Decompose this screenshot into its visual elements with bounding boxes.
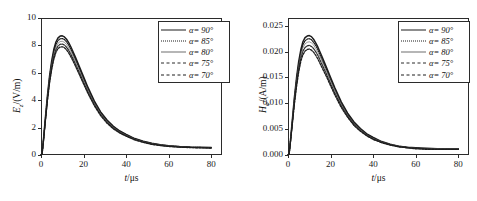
x-axis-tick-label: 40: [359, 160, 387, 169]
legend-line-sample-icon: [161, 60, 186, 66]
x-axis-tick-label: 80: [197, 160, 225, 169]
x-axis-tick-label: 20: [317, 160, 345, 169]
legend-line-sample-icon: [401, 27, 426, 33]
legend-item: α= 80°: [401, 47, 466, 58]
legend-item: α= 75°: [161, 58, 226, 69]
x-axis-tick: [211, 155, 212, 158]
legend-item-label: α= 80°: [429, 47, 453, 57]
y-axis-tick: [38, 18, 41, 19]
y-axis-tick-label: 0: [2, 150, 36, 159]
y-axis-tick: [285, 103, 288, 104]
legend-item-label: α= 80°: [189, 47, 213, 57]
legend-item-label: α= 70°: [429, 70, 453, 80]
y-axis-title-right: Hφ/(A/m): [258, 76, 271, 113]
x-axis-tick: [458, 155, 459, 158]
x-axis-tick: [373, 155, 374, 158]
x-axis-tick: [169, 155, 170, 158]
legend-line-sample-icon: [401, 60, 426, 66]
y-axis-tick: [38, 100, 41, 101]
legend-line-sample-icon: [161, 49, 186, 55]
y-axis-tick: [38, 73, 41, 74]
x-axis-tick: [126, 155, 127, 158]
legend-line-sample-icon: [161, 27, 186, 33]
x-axis-tick: [331, 155, 332, 158]
chart-panel-left: 0246810020406080 Ez/(V/m) t/μs α= 90° α=…: [0, 0, 238, 201]
x-axis-tick-label: 0: [27, 160, 55, 169]
x-axis-title-right: t/μs: [359, 173, 399, 183]
x-axis-tick-label: 60: [402, 160, 430, 169]
y-axis-tick-label: 6: [2, 68, 36, 77]
legend-item: α= 80°: [161, 47, 226, 58]
x-axis-tick-label: 80: [444, 160, 472, 169]
x-axis-tick: [84, 155, 85, 158]
legend-right: α= 90° α= 85° α= 80° α= 75° α= 70°: [398, 21, 470, 83]
legend-item: α= 70°: [401, 69, 466, 80]
x-axis-tick-label: 60: [155, 160, 183, 169]
legend-item-label: α= 75°: [429, 58, 453, 68]
x-axis-tick: [416, 155, 417, 158]
legend-item: α= 85°: [401, 35, 466, 46]
y-axis-tick: [285, 52, 288, 53]
x-axis-title-left: t/μs: [112, 173, 152, 183]
x-axis-tick-label: 20: [70, 160, 98, 169]
legend-line-sample-icon: [401, 38, 426, 44]
legend-line-sample-icon: [161, 72, 186, 78]
y-axis-tick: [285, 26, 288, 27]
legend-item: α= 90°: [401, 24, 466, 35]
y-axis-tick: [38, 128, 41, 129]
y-axis-tick-label: 0.000: [249, 150, 283, 159]
x-axis-tick-label: 40: [112, 160, 140, 169]
legend-item: α= 75°: [401, 58, 466, 69]
y-axis-tick-label: 0.005: [249, 124, 283, 133]
legend-item: α= 70°: [161, 69, 226, 80]
legend-line-sample-icon: [401, 72, 426, 78]
legend-item-label: α= 90°: [429, 25, 453, 35]
y-axis-tick-label: 0.025: [249, 21, 283, 30]
legend-item-label: α= 75°: [189, 58, 213, 68]
x-axis-tick: [41, 155, 42, 158]
y-axis-tick: [285, 77, 288, 78]
y-axis-tick-label: 8: [2, 40, 36, 49]
chart-panel-right: 0.0000.0050.0100.0150.0200.025020406080 …: [238, 0, 476, 201]
y-axis-tick-label: 10: [2, 13, 36, 22]
legend-item-label: α= 90°: [189, 25, 213, 35]
y-axis-tick-label: 0.020: [249, 47, 283, 56]
legend-item-label: α= 70°: [189, 70, 213, 80]
y-axis-tick: [38, 45, 41, 46]
y-axis-tick: [285, 129, 288, 130]
legend-item-label: α= 85°: [429, 36, 453, 46]
legend-line-sample-icon: [161, 38, 186, 44]
x-axis-tick-label: 0: [274, 160, 302, 169]
legend-item-label: α= 85°: [189, 36, 213, 46]
legend-item: α= 85°: [161, 35, 226, 46]
legend-left: α= 90° α= 85° α= 80° α= 75° α= 70°: [158, 21, 230, 83]
legend-line-sample-icon: [401, 49, 426, 55]
y-axis-tick-label: 2: [2, 123, 36, 132]
figure-container: 0246810020406080 Ez/(V/m) t/μs α= 90° α=…: [0, 0, 477, 201]
x-axis-tick: [288, 155, 289, 158]
y-axis-title-left: Ez/(V/m): [12, 78, 25, 112]
legend-item: α= 90°: [161, 24, 226, 35]
